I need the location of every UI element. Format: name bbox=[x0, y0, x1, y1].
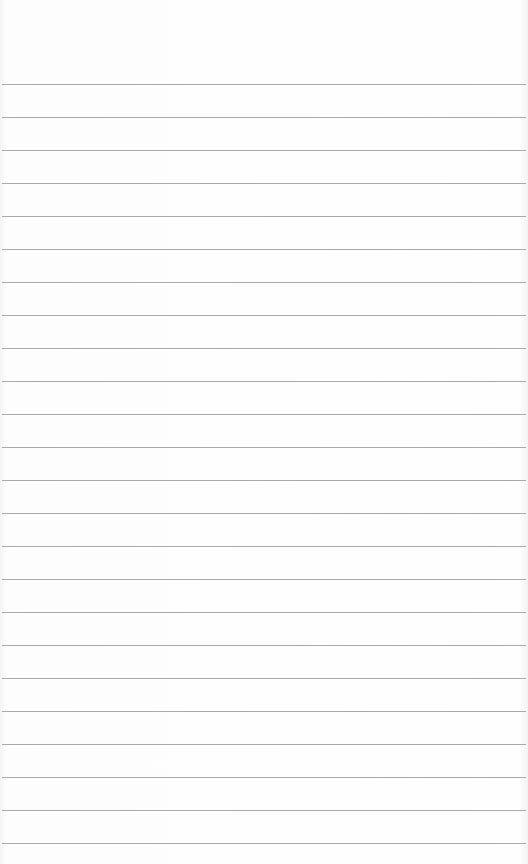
lined-paper bbox=[0, 0, 528, 864]
ruled-line bbox=[2, 480, 526, 481]
ruled-line bbox=[2, 711, 526, 712]
ruled-line bbox=[2, 117, 526, 118]
ruled-line bbox=[2, 513, 526, 514]
ruled-line bbox=[2, 546, 526, 547]
ruled-line bbox=[2, 678, 526, 679]
ruled-line bbox=[2, 381, 526, 382]
ruled-line bbox=[2, 282, 526, 283]
ruled-line bbox=[2, 216, 526, 217]
ruled-line bbox=[2, 183, 526, 184]
ruled-line bbox=[2, 645, 526, 646]
ruled-line bbox=[2, 612, 526, 613]
ruled-line bbox=[2, 447, 526, 448]
ruled-line bbox=[2, 744, 526, 745]
ruled-line bbox=[2, 810, 526, 811]
ruled-line bbox=[2, 249, 526, 250]
ruled-line bbox=[2, 843, 526, 844]
ruled-line bbox=[2, 150, 526, 151]
ruled-line bbox=[2, 315, 526, 316]
ruled-line bbox=[2, 579, 526, 580]
ruled-line bbox=[2, 84, 526, 85]
ruled-line bbox=[2, 414, 526, 415]
ruled-line bbox=[2, 777, 526, 778]
ruled-line bbox=[2, 348, 526, 349]
